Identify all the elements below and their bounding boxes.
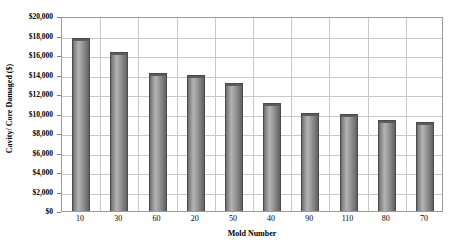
gridline-vertical [215,18,216,211]
y-tick-label: $12,000 [29,91,53,99]
bar [263,103,281,211]
x-tick-label: 20 [176,214,214,223]
x-tick-label: 70 [405,214,443,223]
x-axis: 103060205040901108070 [61,214,443,228]
y-tick-label: $18,000 [29,33,53,41]
bar [187,75,205,212]
gridline-vertical [253,18,254,211]
plot-area [61,17,443,212]
y-tick-label: $6,000 [32,150,53,158]
gridline-horizontal [62,38,442,39]
gridline-vertical [329,18,330,211]
bar [340,114,358,211]
y-tick-label: $10,000 [29,111,53,119]
y-tick-label: $20,000 [29,13,53,21]
x-tick-label: 110 [328,214,366,223]
bar [378,120,396,211]
x-tick-label: 90 [290,214,328,223]
y-axis-title: Cavity/ Core Damaged ($) [5,44,14,174]
gridline-vertical [368,18,369,211]
y-tick-label: $14,000 [29,72,53,80]
y-tick-mark [57,212,61,213]
bar [72,38,90,211]
gridline-vertical [406,18,407,211]
bar [225,83,243,211]
x-axis-title: Mold Number [61,229,443,238]
chart-title-cropped [0,0,457,2]
x-tick-label: 10 [61,214,99,223]
x-tick-label: 80 [367,214,405,223]
x-tick-label: 60 [137,214,175,223]
gridline-vertical [291,18,292,211]
bar-chart-figure: $20,000$18,000$16,000$14,000$12,000$10,0… [0,0,457,250]
gridline-vertical [177,18,178,211]
y-tick-label: $2,000 [32,189,53,197]
bar [416,122,434,211]
bar [301,113,319,211]
y-tick-label: $16,000 [29,52,53,60]
gridline-vertical [100,18,101,211]
x-tick-label: 50 [214,214,252,223]
bar [110,52,128,211]
x-tick-label: 40 [252,214,290,223]
bar [149,73,167,211]
y-tick-label: $8,000 [32,130,53,138]
y-tick-label: $0 [46,208,54,216]
x-tick-label: 30 [99,214,137,223]
gridline-vertical [138,18,139,211]
y-tick-label: $4,000 [32,169,53,177]
